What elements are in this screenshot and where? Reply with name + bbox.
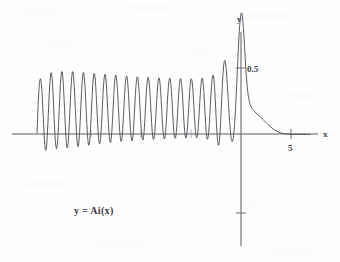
y-axis-label: y xyxy=(237,14,242,24)
x-tick-label-5: 5 xyxy=(288,143,293,153)
y-tick-label-0point5: 0.5 xyxy=(247,64,259,74)
airy-curve xyxy=(37,13,310,150)
function-caption: y = Ai(x) xyxy=(74,205,114,216)
airy-function-figure: x y 0.5 5 y = Ai(x) xyxy=(0,0,340,262)
plot-canvas: x y 0.5 5 xyxy=(0,0,340,262)
x-axis-label: x xyxy=(323,129,328,139)
